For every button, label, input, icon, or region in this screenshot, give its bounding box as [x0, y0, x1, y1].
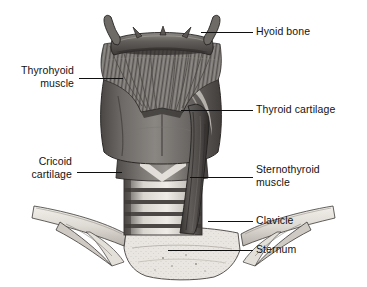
anatomy-figure: Hyoid bone Thyrohyoid muscle Thyroid car… [0, 0, 367, 287]
leader-hyoid-bone [201, 32, 253, 33]
leader-thyrohyoid-muscle [79, 78, 123, 79]
label-thyrohyoid-muscle: Thyrohyoid muscle [14, 64, 74, 89]
label-sternum: Sternum [256, 243, 296, 256]
label-thyroid-cartilage: Thyroid cartilage [256, 103, 335, 116]
leader-sternum [168, 250, 253, 251]
leader-clavicle [208, 221, 253, 222]
leader-sternothyroid-muscle [190, 177, 253, 178]
label-clavicle: Clavicle [256, 214, 294, 227]
larynx-illustration [0, 0, 367, 287]
leader-cricoid-cartilage [77, 172, 122, 173]
label-sternothyroid-muscle: Sternothyroid muscle [256, 163, 320, 188]
leader-thyroid-cartilage [181, 110, 253, 111]
label-hyoid-bone: Hyoid bone [256, 25, 310, 38]
label-cricoid-cartilage: Cricoid cartilage [10, 155, 72, 180]
